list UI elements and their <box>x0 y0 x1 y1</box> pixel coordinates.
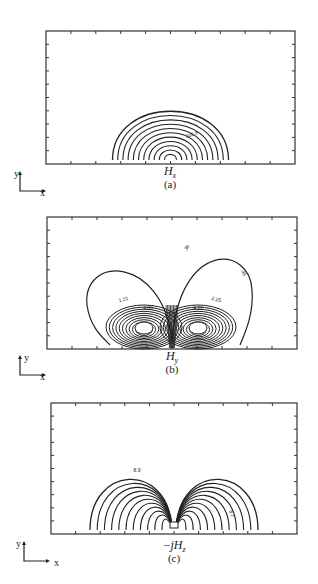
contour-plot-jhz: 8.98.7 <box>0 0 318 584</box>
panel-c: 8.98.7 −jHz (c) y x <box>0 0 318 584</box>
caption-c: (c) <box>154 552 194 564</box>
svg-text:8.9: 8.9 <box>134 467 141 473</box>
axis-indicator-c: y x <box>16 540 56 570</box>
